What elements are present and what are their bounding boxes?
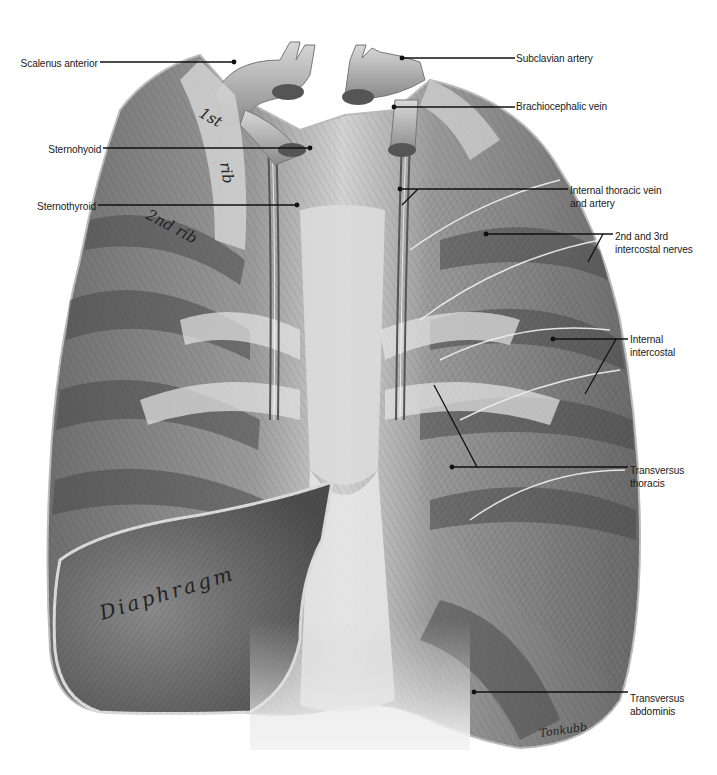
transversus-thoracis-pointer-dot [450, 465, 454, 469]
label-internal-thoracic-vein-artery: Internal thoracic vein and artery [570, 184, 661, 210]
sternohyoid-pointer-dot [308, 146, 312, 150]
label-sternothyroid: Sternothyroid [37, 200, 96, 213]
subclavian-artery-pointer-dot [400, 56, 404, 60]
intercostal-nerves-pointer-dot [484, 232, 488, 236]
scalenus-anterior-pointer-dot [232, 60, 236, 64]
figure-stage: 1st rib 2nd rib Diaphragm Tonkubb Scalen… [0, 0, 717, 775]
label-transversus-abdominis: Transversus abdominis [630, 692, 684, 718]
transversus-abdominis-pointer-dot [472, 690, 476, 694]
sternum [300, 205, 385, 485]
label-transversus-thoracis: Transversus thoracis [630, 464, 684, 490]
thoracic-wall-illustration: 1st rib 2nd rib Diaphragm Tonkubb [0, 0, 717, 775]
label-sternohyoid: Sternohyoid [48, 143, 101, 156]
internal-thoracic-vein-artery-pointer-dot [398, 187, 402, 191]
sternothyroid-pointer-dot [295, 203, 299, 207]
label-internal-intercostal: Internal intercostal [630, 333, 675, 359]
rib1-text-b: rib [216, 161, 237, 185]
brachiocephalic-vein-pointer-dot [392, 105, 396, 109]
label-intercostal-nerves: 2nd and 3rd intercostal nerves [615, 230, 693, 256]
label-brachiocephalic-vein: Brachiocephalic vein [516, 100, 607, 113]
label-scalenus-anterior: Scalenus anterior [21, 57, 98, 70]
internal-intercostal-pointer-dot [551, 337, 555, 341]
label-subclavian-artery: Subclavian artery [516, 52, 593, 65]
